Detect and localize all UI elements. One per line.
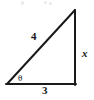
hypotenuse-label: 4 — [31, 31, 37, 42]
triangle-diagram-canvas: 4 x 3 θ — [0, 0, 94, 100]
angle-theta-label: θ — [18, 74, 22, 83]
adjacent-side-label: 3 — [42, 85, 48, 96]
opposite-side-label: x — [82, 48, 88, 59]
